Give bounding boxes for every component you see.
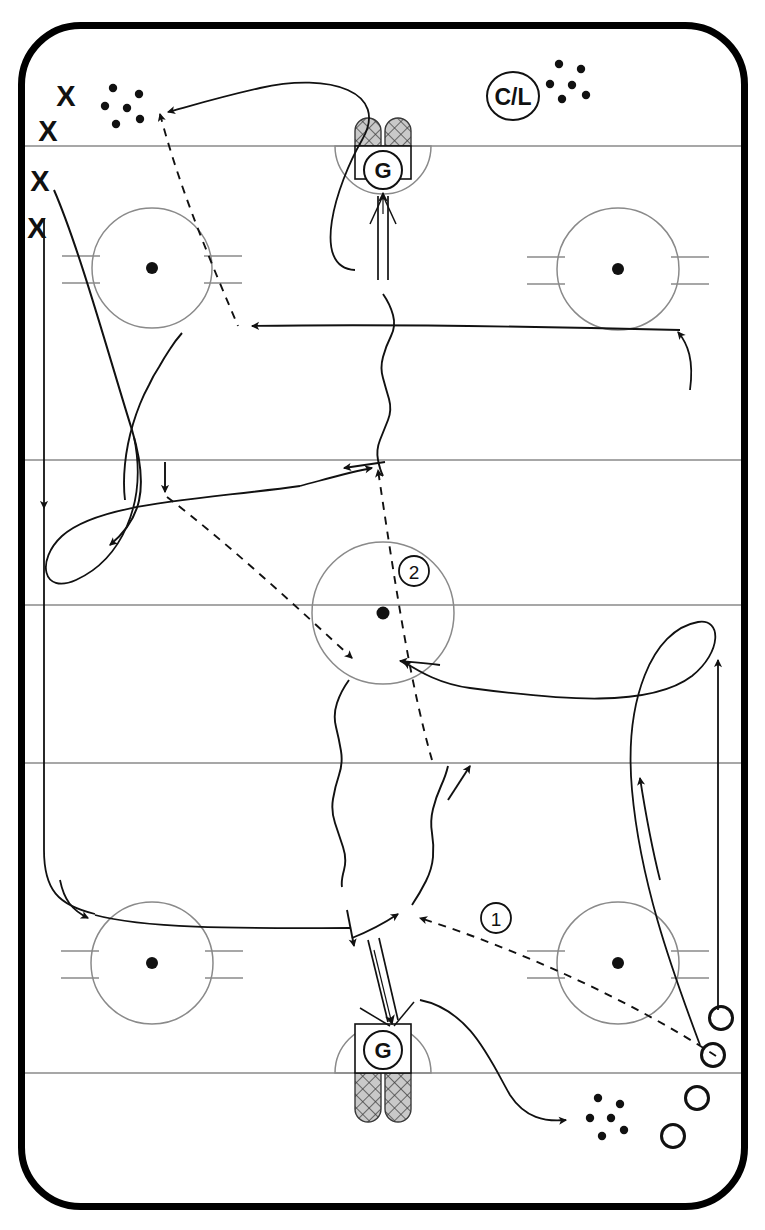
top-goalie-label: G — [374, 158, 391, 183]
coach-line-badge: C/L — [487, 72, 539, 120]
top-goal-net-right — [385, 118, 411, 146]
x-player-4: X — [27, 212, 47, 244]
bottom-right-faceoff-dot — [612, 957, 624, 969]
top-left-faceoff-dot — [146, 262, 158, 274]
sequence-badge-2: 2 — [399, 556, 429, 586]
sequence-label-1: 1 — [491, 909, 502, 930]
top-right-faceoff-dot — [612, 263, 624, 275]
bottom-left-faceoff-dot — [146, 957, 158, 969]
sequence-label-2: 2 — [409, 562, 420, 583]
x-player-1: X — [56, 80, 76, 112]
hockey-rink-diagram: G G — [0, 0, 765, 1230]
center-faceoff-dot — [377, 607, 390, 620]
x-player-2: X — [38, 115, 58, 147]
sequence-badge-1: 1 — [481, 903, 511, 933]
bottom-goal-net-right — [385, 1073, 411, 1122]
x-player-3: X — [30, 165, 50, 197]
bottom-goal-net-left — [355, 1073, 381, 1122]
bottom-goalie-label: G — [374, 1038, 391, 1063]
rink-diagram-canvas: G G — [0, 0, 765, 1230]
coach-line-label: C/L — [494, 84, 531, 110]
